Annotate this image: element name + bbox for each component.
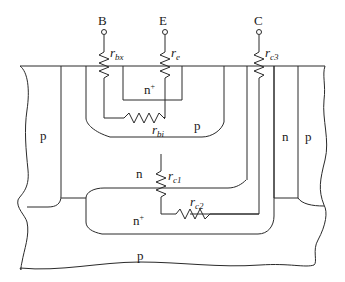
rbx-label: rbx [110, 45, 124, 62]
rc2-resistor-icon [176, 209, 259, 219]
collector-terminal-icon [257, 30, 262, 35]
substrate-label: p [137, 248, 144, 263]
wafer-right-edge [314, 66, 327, 265]
base-terminal-label: B [98, 13, 107, 28]
buried-layer-top-left [86, 180, 246, 198]
buried-layer-label: n+ [133, 213, 145, 228]
left-isolation-label: p [40, 128, 47, 143]
diagram-canvas: B rbx rbi E re n+ C rc3 rc1 rc2 p p n n+… [0, 0, 345, 282]
right-isolation-label: p [305, 129, 312, 144]
emitter-terminal-icon [163, 30, 168, 35]
rc3-resistor-icon [190, 35, 264, 214]
rc1-label: rc1 [168, 168, 182, 185]
re-label: re [171, 45, 180, 62]
rbi-label: rbi [152, 122, 165, 139]
collector-terminal-label: C [254, 13, 263, 28]
base-terminal-icon [102, 30, 107, 35]
collector-epi-label: n [136, 166, 143, 181]
re-resistor-icon [160, 35, 170, 118]
rbi-resistor-icon [124, 113, 165, 123]
wafer-left-edge [18, 66, 29, 270]
base-region-label: p [194, 118, 201, 133]
rc2-label: rc2 [190, 194, 204, 211]
wafer-bottom-edge [20, 262, 314, 269]
rc3-label: rc3 [265, 45, 279, 62]
emitter-region-label: n+ [144, 82, 156, 97]
bjt-cross-section-diagram: B rbx rbi E re n+ C rc3 rc1 rc2 p p n n+… [0, 0, 345, 282]
emitter-terminal-label: E [159, 13, 167, 28]
right-iso-left [298, 198, 324, 206]
sinker-region-label: n [282, 129, 289, 144]
